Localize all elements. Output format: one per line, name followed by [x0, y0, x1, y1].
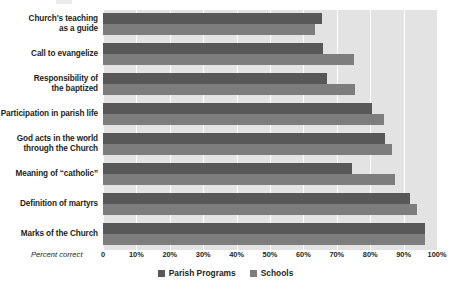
bar-group — [103, 223, 437, 245]
bar-schools — [103, 114, 384, 125]
bar-schools — [103, 24, 315, 35]
bar-group — [103, 43, 437, 65]
legend-item[interactable]: Schools — [250, 268, 294, 278]
category-label: Marks of the Church — [0, 229, 98, 239]
category-label: Meaning of “catholic” — [0, 169, 98, 179]
legend-swatch-icon — [250, 270, 257, 277]
bar-chart: Church's teachingas a guideCall to evang… — [0, 0, 451, 287]
category-label: Participation in parish life — [0, 109, 98, 119]
legend-item[interactable]: Parish Programs — [158, 268, 236, 278]
bar-parish-programs — [103, 133, 385, 144]
x-tick-label: 50% — [263, 250, 278, 259]
x-tick-label: 70% — [329, 250, 344, 259]
bar-schools — [103, 144, 392, 155]
category-label: Call to evangelize — [0, 49, 98, 59]
x-tick-label: 10% — [129, 250, 144, 259]
category-label-line: the baptized — [0, 84, 98, 94]
bar-group — [103, 103, 437, 125]
x-tick-label: 30% — [196, 250, 211, 259]
category-label-line: Meaning of “catholic” — [0, 169, 98, 179]
category-label: God acts in the worldthrough the Church — [0, 134, 98, 153]
bar-group — [103, 163, 437, 185]
bar-group — [103, 193, 437, 215]
bar-schools — [103, 174, 395, 185]
legend-swatch-icon — [158, 270, 165, 277]
category-label-line: Responsibility of — [0, 74, 98, 84]
bar-parish-programs — [103, 73, 327, 84]
x-axis-ticks: 010%20%30%40%50%60%70%80%90%100% — [103, 250, 437, 264]
bar-group — [103, 133, 437, 155]
category-label: Responsibility ofthe baptized — [0, 74, 98, 93]
bar-schools — [103, 234, 425, 245]
x-tick-label: 60% — [296, 250, 311, 259]
category-label: Church's teachingas a guide — [0, 14, 98, 33]
bar-group — [103, 13, 437, 35]
bar-schools — [103, 54, 354, 65]
x-tick-label: 80% — [363, 250, 378, 259]
gridline-100 — [437, 10, 438, 250]
category-label-line: Participation in parish life — [0, 109, 98, 119]
x-axis-title: Percent correct — [31, 250, 83, 259]
bar-parish-programs — [103, 103, 372, 114]
x-tick-label: 90% — [396, 250, 411, 259]
x-tick-label: 20% — [162, 250, 177, 259]
category-label-line: as a guide — [0, 24, 98, 34]
category-label-line: through the Church — [0, 144, 98, 154]
bar-schools — [103, 204, 417, 215]
legend-label: Parish Programs — [169, 268, 236, 278]
x-tick-label: 100% — [428, 250, 447, 259]
bar-parish-programs — [103, 163, 352, 174]
category-label-line: Marks of the Church — [0, 229, 98, 239]
legend-label: Schools — [261, 268, 294, 278]
category-label: Definition of martyrs — [0, 199, 98, 209]
chart-legend: Parish ProgramsSchools — [0, 268, 451, 278]
bar-group — [103, 73, 437, 95]
category-axis-labels: Church's teachingas a guideCall to evang… — [0, 10, 98, 250]
bar-parish-programs — [103, 13, 322, 24]
plot-area — [103, 10, 437, 250]
top-crop-artifact — [56, 0, 72, 4]
x-tick-label: 0 — [101, 250, 105, 259]
category-label-line: God acts in the world — [0, 134, 98, 144]
category-label-line: Church's teaching — [0, 14, 98, 24]
bar-parish-programs — [103, 43, 323, 54]
category-label-line: Definition of martyrs — [0, 199, 98, 209]
bar-parish-programs — [103, 223, 425, 234]
x-tick-label: 40% — [229, 250, 244, 259]
bar-schools — [103, 84, 355, 95]
category-label-line: Call to evangelize — [0, 49, 98, 59]
bar-parish-programs — [103, 193, 410, 204]
